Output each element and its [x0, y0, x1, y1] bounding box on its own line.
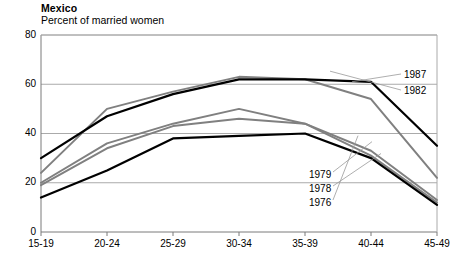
chart-container: Mexico Percent of married women 80 60 40…	[0, 0, 452, 262]
series-lines-group	[41, 77, 437, 205]
x-ticks-group	[41, 232, 437, 236]
series-line-1976	[41, 134, 437, 205]
chart-plot-svg	[0, 0, 452, 262]
leader-line-1987	[352, 74, 401, 82]
